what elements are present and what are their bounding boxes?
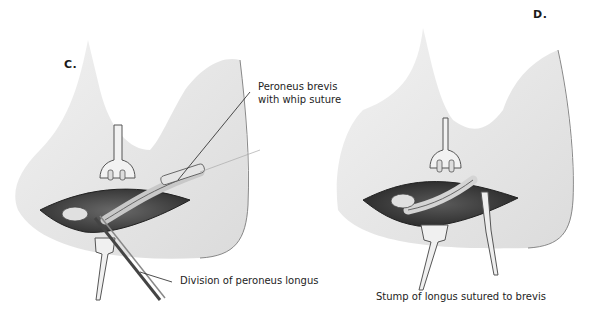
panel-d-illustration [293, 0, 593, 312]
retractor-bottom-d [419, 225, 448, 290]
retractor-bottom-c [95, 238, 115, 300]
panel-letter-d: D. [533, 8, 547, 21]
panel-d: D. Stump of longus sutured to brevis [293, 0, 593, 312]
panel-c-illustration [0, 0, 300, 312]
panel-letter-c: C. [64, 58, 77, 71]
label-stump-longus: Stump of longus sutured to brevis [376, 290, 546, 303]
panel-c: C. Peroneus brevis with whip suture Divi… [0, 0, 300, 312]
